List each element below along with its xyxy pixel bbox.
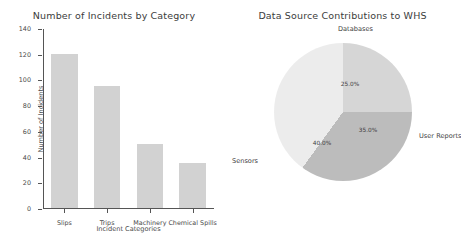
y-axis-tick: 100 <box>38 80 42 81</box>
pie-chart-title: Data Source Contributions to WHS <box>228 10 457 21</box>
y-axis-tick-label: 0 <box>27 205 31 213</box>
pie-slice-percentage: 25.0% <box>341 81 359 87</box>
y-axis-tick: 20 <box>38 183 42 184</box>
y-axis-tick-label: 40 <box>23 154 31 162</box>
pie-disc <box>274 43 412 181</box>
pie-slice-label: User Reports <box>419 132 461 140</box>
x-axis-tick: Machinery <box>150 209 151 213</box>
y-axis-tick-label: 140 <box>19 25 31 33</box>
bar-chart-panel: Number of Incidents by Category Incident… <box>0 0 228 242</box>
pie-plot-area: 25.0%Databases35.0%User Reports40.0%Sens… <box>274 43 412 181</box>
y-axis-tick: 60 <box>38 132 42 133</box>
y-axis-tick-label: 120 <box>19 51 31 59</box>
bar-y-axis-label: Number of Incidents <box>37 85 45 152</box>
pie-slice-label: Sensors <box>232 157 258 165</box>
y-axis-tick: 120 <box>38 55 42 56</box>
x-axis-tick: Trips <box>107 209 108 213</box>
y-axis-tick-label: 80 <box>23 102 31 110</box>
bar <box>94 86 121 208</box>
bar <box>137 144 164 208</box>
bar-plot-area: Incident Categories Number of Incidents … <box>43 29 214 209</box>
x-axis-tick-label: Chemical Spills <box>168 219 216 227</box>
y-axis-tick: 40 <box>38 158 42 159</box>
y-axis-tick-label: 20 <box>23 179 31 187</box>
y-axis-tick-label: 100 <box>19 76 31 84</box>
x-axis-tick-label: Machinery <box>133 219 166 227</box>
pie-slice-percentage: 35.0% <box>359 127 377 133</box>
y-axis-tick: 0 <box>38 209 42 210</box>
x-axis-spine <box>43 208 214 209</box>
bar <box>179 163 206 208</box>
x-axis-tick-label: Trips <box>100 219 115 227</box>
y-axis-tick-label: 60 <box>23 128 31 136</box>
x-axis-tick-label: Slips <box>57 219 72 227</box>
y-axis-tick: 140 <box>38 29 42 30</box>
x-axis-tick: Chemical Spills <box>193 209 194 213</box>
bar <box>51 54 78 208</box>
x-axis-tick: Slips <box>64 209 65 213</box>
pie-slice-percentage: 40.0% <box>313 140 331 146</box>
bar-chart-title: Number of Incidents by Category <box>0 10 228 21</box>
pie-chart-panel: Data Source Contributions to WHS 25.0%Da… <box>228 0 457 242</box>
y-axis-tick: 80 <box>38 106 42 107</box>
pie-slice-label: Databases <box>338 25 373 33</box>
